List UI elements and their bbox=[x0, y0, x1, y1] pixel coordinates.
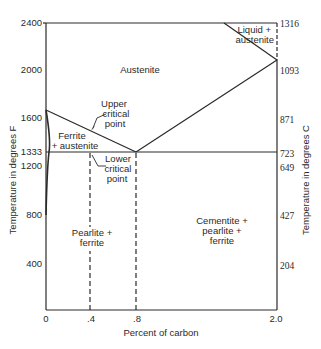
region-liquid-austenite-line2: austenite bbox=[235, 34, 274, 45]
x-axis-ticks: 0 .4 .8 2.0 bbox=[43, 313, 282, 324]
right-axis-ticks: 1316 1093 871 723 649 427 204 bbox=[280, 19, 299, 271]
y-tick-400: 400 bbox=[26, 258, 42, 269]
yr-tick-649: 649 bbox=[280, 163, 295, 173]
upper-critical-label-3: point bbox=[105, 118, 126, 129]
y-tick-2400: 2400 bbox=[21, 17, 42, 28]
region-ferrite-austenite-line2: + austenite bbox=[52, 140, 99, 151]
yr-tick-871: 871 bbox=[280, 115, 295, 125]
yr-tick-1093: 1093 bbox=[280, 66, 299, 76]
region-pearlite-ferrite-line2: ferrite bbox=[80, 237, 104, 248]
yr-tick-1316: 1316 bbox=[280, 19, 299, 29]
y-axis-label-left: Temperature in degrees F bbox=[7, 125, 18, 234]
region-cementite-line3: ferrite bbox=[210, 235, 234, 246]
x-tick-0: 0 bbox=[43, 313, 48, 324]
y-tick-1200: 1200 bbox=[21, 160, 42, 171]
lower-critical-label-3: point bbox=[107, 173, 128, 184]
yr-tick-204: 204 bbox=[280, 261, 295, 271]
yr-tick-427: 427 bbox=[280, 211, 295, 221]
y-tick-1600: 1600 bbox=[21, 112, 42, 123]
x-axis-label: Percent of carbon bbox=[124, 327, 199, 338]
y-tick-800: 800 bbox=[26, 209, 42, 220]
left-axis-ticks: 2400 2000 1600 1333 1200 800 400 bbox=[21, 17, 42, 269]
region-austenite: Austenite bbox=[120, 64, 160, 75]
x-tick-0.8: .8 bbox=[133, 313, 141, 324]
upper-arrow-head bbox=[91, 125, 95, 130]
y-tick-1333: 1333 bbox=[21, 146, 42, 157]
yr-tick-723: 723 bbox=[280, 149, 295, 159]
y-axis-label-right: Temperature in degrees C bbox=[300, 125, 311, 235]
phase-diagram: 2400 2000 1600 1333 1200 800 400 1316 10… bbox=[0, 0, 321, 349]
x-tick-2.0: 2.0 bbox=[269, 313, 282, 324]
x-tick-0.4: .4 bbox=[87, 313, 95, 324]
y-tick-2000: 2000 bbox=[21, 64, 42, 75]
